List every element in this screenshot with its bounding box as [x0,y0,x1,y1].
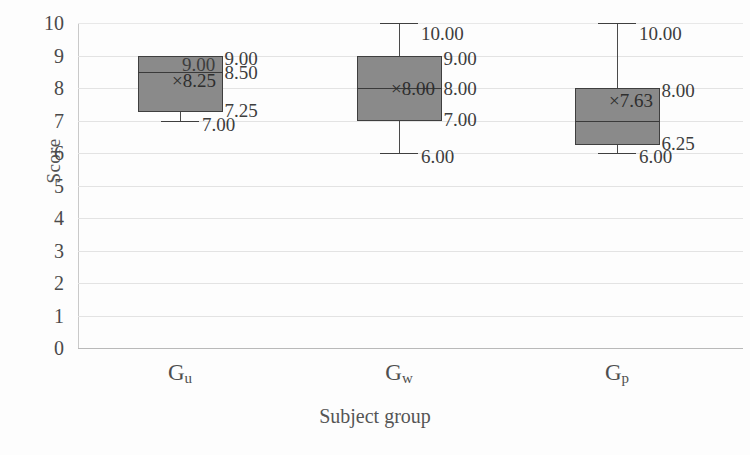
gridline-3 [78,251,743,252]
x-tick-label-Gp: Gp [557,360,677,387]
gridline-4 [78,218,743,219]
plot-area: ×8.259.009.008.507.257.00×8.0010.009.008… [78,23,743,348]
mean-marker-Gw: ×8.00 [391,79,435,98]
upper-whisker-Gp [617,23,618,88]
median-line-Gp [575,121,660,122]
label-q3-Gw: 9.00 [444,48,477,67]
lower-whisker-cap-Gw [380,153,418,154]
label-q3-Gp: 8.00 [662,81,695,100]
gridline-0 [78,348,743,349]
x-tick-label-Gu: Gu [120,360,240,387]
label-max-Gp: 10.00 [639,24,682,43]
label-median-Gu: 8.50 [225,62,258,81]
y-tick-label-10: 10 [0,12,64,35]
x-axis-title: Subject group [0,405,750,428]
gridline-1 [78,316,743,317]
y-tick-label-9: 9 [0,44,64,67]
upper-whisker-cap-Gp [598,23,636,24]
boxplot-figure: Score 109876543210 ×8.259.009.008.507.25… [0,0,750,455]
gridline-5 [78,186,743,187]
upper-whisker-cap-Gw [380,23,418,24]
y-tick-label-8: 8 [0,77,64,100]
label-max-Gu: 9.00 [182,54,215,73]
label-min-Gu: 7.00 [202,114,235,133]
y-tick-label-2: 2 [0,272,64,295]
mean-marker-Gp: ×7.63 [609,91,653,110]
y-tick-label-3: 3 [0,239,64,262]
y-tick-label-6: 6 [0,142,64,165]
x-tick-label-Gw: Gw [339,360,459,387]
lower-whisker-Gw [399,121,400,154]
label-median-Gw: 8.00 [444,79,477,98]
label-q1-Gw: 7.00 [444,109,477,128]
y-tick-label-4: 4 [0,207,64,230]
lower-whisker-cap-Gu [161,121,199,122]
upper-whisker-Gw [399,23,400,56]
label-min-Gp: 6.00 [639,147,672,166]
label-max-Gw: 10.00 [421,24,464,43]
lower-whisker-Gu [180,112,181,120]
y-tick-label-0: 0 [0,337,64,360]
y-tick-label-5: 5 [0,174,64,197]
y-tick-label-1: 1 [0,304,64,327]
lower-whisker-Gp [617,145,618,153]
lower-whisker-cap-Gp [598,153,636,154]
y-axis-tick-labels: 109876543210 [0,23,70,348]
gridline-2 [78,283,743,284]
y-tick-label-7: 7 [0,109,64,132]
label-min-Gw: 6.00 [421,147,454,166]
